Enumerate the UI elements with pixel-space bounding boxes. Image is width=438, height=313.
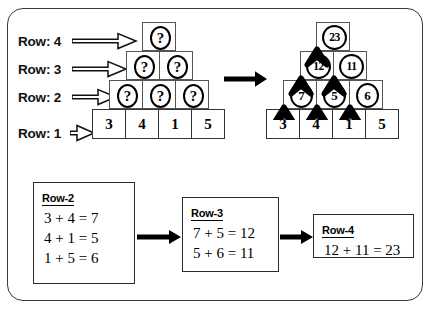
pyramid-left-value-r1c1: 3 (93, 117, 125, 132)
equation-line: 12 + 11 = 23 (322, 241, 406, 261)
equation-line: 7 + 5 = 12 (191, 224, 271, 244)
equation-box-row4-lines: 12 + 11 = 23 (322, 241, 406, 261)
hollow-right-arrow-icon-row4 (72, 32, 138, 50)
pyramid-left-cell-r1c3: 1 (158, 109, 192, 139)
pyramid-left-value-r2c3: ? (183, 84, 204, 108)
equation-line: 4 + 1 = 5 (42, 229, 127, 249)
equation-box-row3-lines: 7 + 5 = 12 5 + 6 = 11 (191, 224, 271, 264)
pyramid-left-value-r2c2: ? (150, 84, 171, 108)
hollow-right-arrow-icon-row3 (72, 60, 128, 78)
row-label-1: Row: 1 (18, 126, 61, 141)
row-label-3: Row: 3 (18, 62, 61, 77)
pyramid-left-cell-r3c1: ? (126, 51, 160, 80)
equation-line: 5 + 6 = 11 (191, 244, 271, 264)
sum-chevron-marks (262, 40, 404, 120)
pyramid-left-value-r3c2: ? (167, 55, 188, 79)
equation-line: 3 + 4 = 7 (42, 209, 127, 229)
pyramid-left-value-r1c2: 4 (126, 117, 158, 132)
equation-box-row2-lines: 3 + 4 = 7 4 + 1 = 5 1 + 5 = 6 (42, 209, 127, 268)
pyramid-left-value-r1c3: 1 (159, 117, 191, 132)
pyramid-left-value-r1c4: 5 (192, 117, 224, 132)
equation-box-row4: Row-4 12 + 11 = 23 (313, 214, 414, 258)
pyramid-left-cell-r2c1: ? (109, 80, 143, 109)
equation-box-row2-title: Row-2 (42, 192, 74, 206)
solid-right-arrow-icon-row2-to-row3 (137, 229, 182, 245)
equation-line: 1 + 5 = 6 (42, 249, 127, 269)
row-label-4: Row: 4 (18, 34, 61, 49)
solid-right-arrow-icon-row3-to-row4 (280, 229, 314, 245)
pyramid-left-cell-r1c1: 3 (92, 109, 126, 139)
pyramid-left-value-r4c1: ? (150, 26, 171, 50)
pyramid-left-value-r3c1: ? (134, 55, 155, 79)
pyramid-left-cell-r1c4: 5 (191, 109, 225, 139)
pyramid-left-cell-r2c3: ? (175, 80, 209, 109)
pyramid-left-cell-r3c2: ? (159, 51, 193, 80)
equation-box-row3: Row-3 7 + 5 = 12 5 + 6 = 11 (182, 197, 279, 272)
equation-box-row2: Row-2 3 + 4 = 7 4 + 1 = 5 1 + 5 = 6 (33, 182, 135, 284)
equation-box-row4-title: Row-4 (322, 224, 354, 238)
equation-box-row3-title: Row-3 (191, 207, 223, 221)
pyramid-left-cell-r2c2: ? (142, 80, 176, 109)
row-label-2: Row: 2 (18, 90, 61, 105)
pyramid-puzzle-figure: Row: 4 Row: 3 Row: 2 Row: 1 ? ? ? ? ? (0, 0, 438, 313)
pyramid-left-cell-r1c2: 4 (125, 109, 159, 139)
pyramid-left-value-r2c1: ? (117, 84, 138, 108)
pyramid-left-cell-r4c1: ? (142, 22, 176, 51)
